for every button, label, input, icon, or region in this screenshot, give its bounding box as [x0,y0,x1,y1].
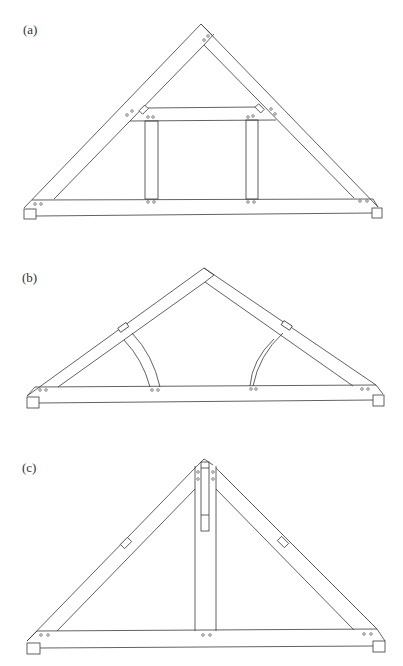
support-right-b [373,395,384,406]
queen-posts-a [145,120,258,199]
tie-beam-c [37,629,377,648]
support-left-a [24,209,36,219]
rafters-a [24,24,378,208]
support-right-c [373,641,385,652]
arched-braces-b [124,333,283,387]
tie-beam-a [32,199,373,216]
rafters-b [27,268,383,396]
support-right-a [372,208,382,218]
truss-diagrams [0,0,403,666]
truss-a [24,24,382,219]
truss-b [27,268,384,408]
support-left-b [27,397,39,408]
pegs-a [34,35,369,206]
collar-tie-a [130,104,276,121]
rafters-c [27,459,385,641]
tie-beam-b [35,385,376,403]
pegs-b [39,388,370,392]
truss-c [27,459,385,654]
king-post-c [195,462,216,631]
pegs-c [40,471,373,637]
support-left-c [27,643,40,654]
